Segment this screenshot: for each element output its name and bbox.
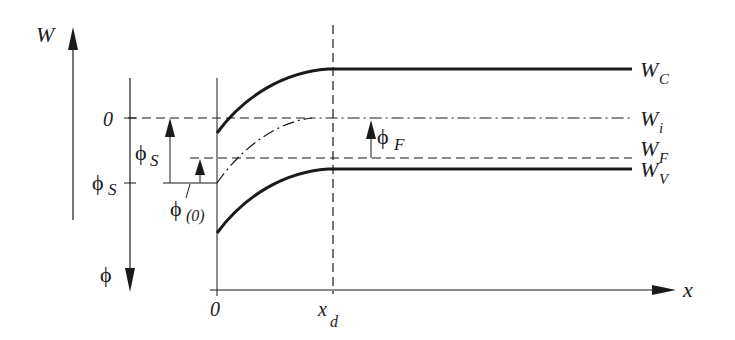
svg-text:x: x <box>317 298 327 320</box>
phi-s-annotation-label: ϕ S <box>135 140 159 170</box>
phi-s-arrow <box>165 118 175 183</box>
energy-axis-label: W <box>36 22 56 47</box>
leader-line <box>186 184 190 198</box>
arrow-down-icon <box>125 268 135 292</box>
svg-text:S: S <box>108 180 117 199</box>
x-origin-label: 0 <box>210 298 220 320</box>
conduction-band-label: W C <box>640 57 670 87</box>
svg-text:ϕ: ϕ <box>170 196 182 221</box>
svg-text:S: S <box>150 151 159 170</box>
arrow-up-icon <box>68 27 78 50</box>
phi-f-arrow <box>366 120 376 158</box>
svg-text:ϕ: ϕ <box>377 124 389 149</box>
svg-text:F: F <box>393 135 405 154</box>
intrinsic-level-label: W i <box>640 106 663 136</box>
potential-surface-label: ϕ S <box>92 170 117 199</box>
potential-axis-label: ϕ <box>100 262 112 287</box>
potential-zero-label: 0 <box>103 108 113 130</box>
svg-text:F: F <box>658 150 669 166</box>
position-axis-label: x <box>682 277 693 302</box>
arrow-up-icon <box>366 120 376 139</box>
phi-f-annotation-label: ϕ F <box>377 124 405 154</box>
potential-axis <box>124 78 136 292</box>
position-axis <box>210 285 676 295</box>
valence-band <box>217 169 632 233</box>
svg-text:(0): (0) <box>186 207 205 225</box>
conduction-band <box>217 69 632 133</box>
svg-text:W: W <box>640 106 660 131</box>
phi-0-annotation-label: ϕ (0) <box>170 196 205 225</box>
svg-text:ϕ: ϕ <box>92 170 104 195</box>
phi-0-arrow <box>186 159 205 198</box>
arrow-up-icon <box>165 118 175 137</box>
arrow-up-icon <box>195 159 205 175</box>
arrow-right-icon <box>652 285 676 295</box>
svg-text:W: W <box>640 157 660 182</box>
x-depletion-label: x d <box>317 298 339 330</box>
svg-text:d: d <box>330 313 339 330</box>
svg-text:W: W <box>640 57 660 82</box>
svg-text:C: C <box>659 71 670 87</box>
svg-text:ϕ: ϕ <box>135 140 147 165</box>
svg-text:i: i <box>659 120 663 136</box>
svg-text:V: V <box>659 171 670 187</box>
energy-axis <box>68 27 78 220</box>
band-diagram: W ϕ 0 ϕ S x 0 x d ϕ S <box>0 0 735 340</box>
intrinsic-level <box>217 118 632 183</box>
